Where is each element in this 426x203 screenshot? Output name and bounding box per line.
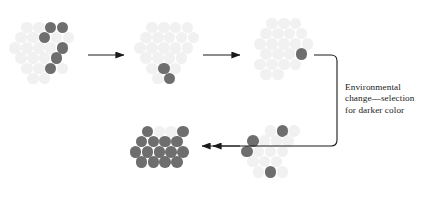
arrow-stage3-to-stage4-curved	[213, 55, 337, 146]
natural-selection-diagram: Environmental change—selection for darke…	[0, 0, 426, 203]
environmental-change-annotation: Environmental change—selection for darke…	[345, 82, 414, 116]
